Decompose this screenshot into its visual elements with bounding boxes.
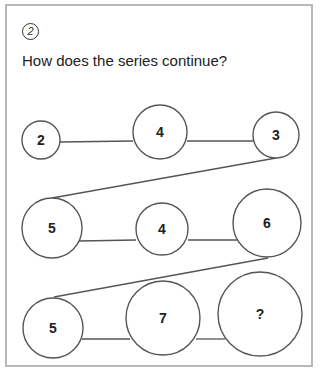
circle-label: 2 (37, 132, 45, 148)
series-diagram: 24354657? (0, 0, 322, 375)
circle-label: 5 (48, 220, 56, 236)
number-circle: 4 (133, 105, 187, 159)
number-circle: 2 (22, 121, 60, 159)
circle-label: 4 (158, 221, 166, 237)
circle-label: 7 (159, 310, 167, 326)
number-circle: 4 (136, 203, 188, 255)
number-circle: 5 (22, 198, 82, 258)
number-circle: 5 (23, 298, 83, 358)
number-circle: 7 (126, 281, 200, 355)
unknown-circle: ? (218, 272, 302, 356)
number-circle: 3 (253, 112, 299, 158)
circle-label: ? (256, 306, 265, 322)
circle-label: 6 (263, 215, 271, 231)
circle-label: 4 (156, 124, 164, 140)
circle-label: 3 (272, 127, 280, 143)
circle-label: 5 (49, 320, 57, 336)
number-circle: 6 (233, 189, 301, 257)
